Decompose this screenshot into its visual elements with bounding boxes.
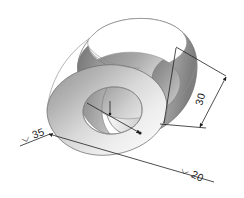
outer-diameter-label: ⌵ 35	[19, 125, 46, 145]
length-label: 30	[192, 91, 207, 106]
cylinder-body	[47, 18, 197, 155]
inner-diameter-label: ⌵ 20	[179, 163, 206, 184]
technical-drawing-canvas: ⌵ 35 ⌵ 20 30	[0, 0, 244, 198]
inner-dim-endpoint	[138, 131, 141, 134]
center-mark-point	[109, 113, 112, 116]
length-extension-line-bottom	[160, 124, 206, 128]
cylinder-drawing-svg: ⌵ 35 ⌵ 20 30	[0, 0, 244, 198]
